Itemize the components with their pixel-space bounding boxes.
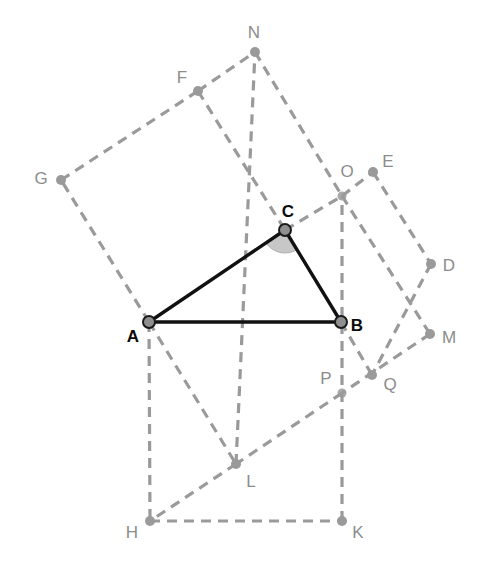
point-label-E: E [382,152,393,172]
intersection-marker-P [338,389,347,398]
construction-segment-P-L [236,393,342,464]
construction-segment-A-G [61,180,149,322]
construction-segment-A-H [149,322,150,521]
construction-lines-group [61,52,431,521]
point-label-M: M [442,328,456,348]
point-dot-F [193,86,203,96]
point-label-F: F [177,68,187,88]
construction-segment-F-C [198,91,285,230]
point-label-L: L [246,472,255,492]
point-dot-P [338,389,347,398]
point-label-D: D [443,256,455,276]
construction-segment-N-O [255,52,342,196]
point-label-B: B [351,316,363,336]
point-label-H: H [126,523,138,543]
construction-segment-G-F [61,91,198,180]
point-dot-A [143,316,155,328]
point-dot-D [426,259,436,269]
point-label-C: C [282,202,294,222]
construction-segment-D-Q [372,264,431,375]
point-dot-O [338,192,347,201]
construction-segment-F-N [198,52,255,91]
triangle-edge-BC [285,230,341,322]
point-dot-E [368,167,378,177]
construction-segment-L-H [150,464,236,521]
point-dot-G [56,175,66,185]
point-label-Q: Q [383,375,396,395]
point-dot-L [231,459,241,469]
point-label-A: A [127,327,139,347]
point-dot-H [145,516,155,526]
point-label-N: N [248,23,260,43]
geometry-canvas [0,0,487,570]
geometry-figure: ABCDEFGHKLMNOPQ [0,0,487,570]
point-label-G: G [34,169,47,189]
point-label-O: O [340,162,353,182]
intersection-marker-O [338,192,347,201]
point-dot-N [250,47,260,57]
vertex-dots-group [56,47,436,526]
point-dot-B [335,316,347,328]
point-dot-K [337,516,347,526]
point-dot-C [279,224,291,236]
construction-segment-O-M [342,196,430,334]
construction-segment-A-L [149,322,236,464]
triangle-edge-CA [149,230,285,322]
construction-segment-E-D [373,172,431,264]
point-dot-M [425,329,435,339]
point-label-K: K [352,523,363,543]
point-label-P: P [320,369,331,389]
point-dot-Q [367,370,377,380]
